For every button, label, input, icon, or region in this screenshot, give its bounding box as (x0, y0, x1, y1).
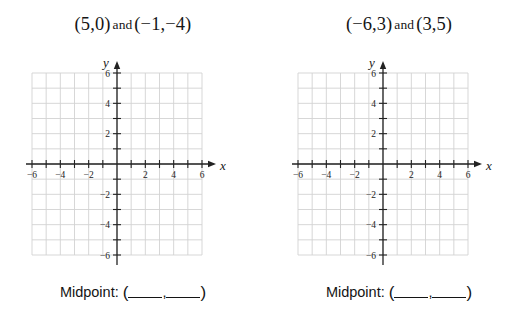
midpoint-y-blank[interactable] (166, 284, 200, 298)
midpoint-x-blank[interactable] (394, 284, 428, 298)
midpoint-y-blank[interactable] (432, 284, 466, 298)
y-tick-label: −6 (366, 251, 376, 261)
y-tick-label: 4 (371, 99, 376, 109)
problem-2: (−6,3)and(3,5) (266, 0, 532, 321)
x-tick-label: −2 (84, 170, 94, 180)
y-tick-label: −4 (366, 220, 376, 230)
x-axis-label: x (219, 158, 226, 173)
x-tick-label: 6 (200, 170, 205, 180)
midpoint-close-paren: ) (466, 283, 472, 302)
x-tick-label: 2 (143, 170, 148, 180)
x-tick-label: −6 (27, 170, 37, 180)
midpoint-label: Midpoint: (326, 284, 385, 300)
problem-prompt: (5,0)and(−1,−4) (0, 14, 266, 35)
x-tick-label: 6 (466, 170, 471, 180)
problem-point-b: (−1,−4) (134, 14, 191, 34)
y-tick-label: −4 (100, 220, 110, 230)
midpoint-close-paren: ) (200, 283, 206, 302)
midpoint-answer-line: Midpoint: (,) (266, 283, 532, 303)
y-tick-label: 6 (371, 69, 376, 79)
x-tick-label: 4 (171, 170, 176, 180)
x-tick-label: −4 (55, 170, 65, 180)
y-tick-label: 2 (371, 129, 376, 139)
coordinate-grid-2: −6 −4 −2 2 4 6 6 4 2 −2 −4 −6 x y (266, 45, 532, 270)
y-tick-label: 4 (105, 99, 110, 109)
problem-point-a: (5,0) (75, 14, 111, 34)
x-tick-label: −6 (293, 170, 303, 180)
x-tick-label: −4 (321, 170, 331, 180)
y-tick-label: 6 (105, 69, 110, 79)
x-axis-label: x (485, 158, 492, 173)
problem-prompt: (−6,3)and(3,5) (266, 14, 532, 35)
y-tick-label: −2 (366, 190, 376, 200)
worksheet: (5,0)and(−1,−4) (0, 0, 532, 321)
problem-conjunction: and (392, 17, 416, 32)
y-tick-label: −2 (100, 190, 110, 200)
x-tick-label: −2 (350, 170, 360, 180)
y-tick-label: −6 (100, 251, 110, 261)
problem-point-a: (−6,3) (346, 14, 392, 34)
coordinate-grid-1: −6 −4 −2 2 4 6 6 4 2 −2 −4 −6 x (0, 45, 266, 270)
y-tick-label: 2 (105, 129, 110, 139)
problem-1: (5,0)and(−1,−4) (0, 0, 266, 321)
midpoint-answer-line: Midpoint: (,) (0, 283, 266, 303)
y-axis (380, 61, 386, 265)
problem-point-b: (3,5) (416, 14, 452, 34)
x-tick-label: 4 (437, 170, 442, 180)
x-tick-label: 2 (409, 170, 414, 180)
midpoint-x-blank[interactable] (128, 284, 162, 298)
y-axis (114, 61, 120, 265)
problem-conjunction: and (111, 17, 135, 32)
y-axis-label: y (367, 55, 375, 70)
midpoint-label: Midpoint: (60, 284, 119, 300)
y-axis-label: y (101, 55, 109, 70)
